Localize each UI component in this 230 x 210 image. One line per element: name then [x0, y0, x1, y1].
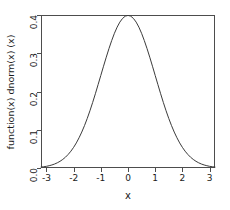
- x-tick-mark: [74, 168, 75, 172]
- x-tick-mark: [128, 168, 129, 172]
- x-tick-mark: [210, 168, 211, 172]
- curve-layer: [41, 15, 215, 168]
- plot-figure: -3-2-10123 0.00.10.20.30.4 x function(x)…: [0, 0, 230, 210]
- y-tick-label: 0.3: [30, 53, 39, 67]
- x-tick-mark: [101, 168, 102, 172]
- x-tick-label: -1: [96, 174, 105, 183]
- x-tick-label: 3: [207, 174, 213, 183]
- x-tick-label: -3: [42, 174, 51, 183]
- x-tick-mark: [46, 168, 47, 172]
- y-tick-label: 0.1: [30, 130, 39, 144]
- x-tick-label: -2: [69, 174, 78, 183]
- x-axis-title: x: [125, 191, 131, 201]
- y-tick-label: 0.0: [30, 168, 39, 182]
- x-tick-label: 1: [152, 174, 158, 183]
- x-tick-mark: [182, 168, 183, 172]
- x-tick-label: 2: [180, 174, 186, 183]
- x-tick-label: 0: [125, 174, 131, 183]
- normal-density-curve: [41, 15, 215, 167]
- y-tick-label: 0.2: [30, 92, 39, 106]
- x-tick-mark: [155, 168, 156, 172]
- y-tick-label: 0.4: [30, 15, 39, 29]
- y-axis-title: function(x) dnorm(x) (x): [6, 35, 16, 150]
